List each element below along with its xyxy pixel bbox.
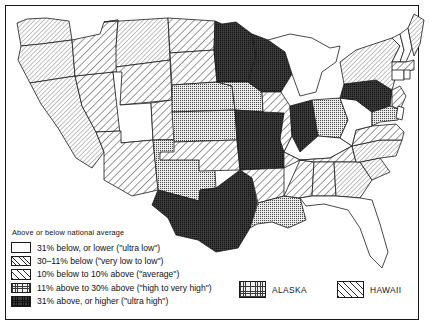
state-CT bbox=[392, 70, 404, 80]
state-NE bbox=[172, 82, 235, 112]
legend-swatch-ultrahigh bbox=[11, 296, 31, 307]
legend-label-high: 11% above to 30% above ("high to very hi… bbox=[37, 283, 212, 293]
legend-label-ultralow: 31% below, or lower ("ultra low") bbox=[37, 243, 160, 253]
state-MN bbox=[214, 21, 256, 82]
inset-label-alaska: ALASKA bbox=[272, 285, 307, 295]
inset-label-hawaii: HAWAII bbox=[370, 285, 402, 295]
legend-title: Above or below national average bbox=[12, 228, 261, 238]
legend-item-high: 11% above to 30% above ("high to very hi… bbox=[11, 281, 261, 294]
legend-item-verylow: 30–11% below ("very low to low") bbox=[11, 254, 261, 267]
state-ND bbox=[168, 18, 215, 53]
inset-swatch-hawaii bbox=[337, 281, 364, 298]
inset-legend: ALASKA HAWAII bbox=[239, 281, 414, 303]
state-KS bbox=[172, 110, 237, 142]
inset-swatch-alaska bbox=[239, 281, 266, 298]
legend-label-average: 10% below to 10% above ("average") bbox=[37, 269, 179, 279]
legend-swatch-high bbox=[11, 283, 31, 294]
legend-label-ultrahigh: 31% above, or higher ("ultra high") bbox=[37, 296, 168, 306]
legend-swatch-ultralow bbox=[11, 242, 31, 253]
state-WY bbox=[116, 60, 172, 105]
map-figure: Above or below national average 31% belo… bbox=[0, 0, 429, 326]
state-RI bbox=[404, 70, 410, 79]
legend-item-ultralow: 31% below, or lower ("ultra low") bbox=[11, 241, 261, 254]
legend: Above or below national average 31% belo… bbox=[11, 228, 261, 308]
inset-hawaii: HAWAII bbox=[337, 281, 402, 298]
legend-item-average: 10% below to 10% above ("average") bbox=[11, 268, 261, 281]
state-SD bbox=[170, 50, 217, 85]
state-AL bbox=[312, 162, 336, 196]
legend-swatch-average bbox=[11, 269, 31, 280]
legend-item-ultrahigh: 31% above, or higher ("ultra high") bbox=[11, 295, 261, 308]
state-MO bbox=[235, 110, 287, 170]
state-OR bbox=[18, 40, 75, 83]
legend-swatch-verylow bbox=[11, 256, 31, 267]
state-FL bbox=[300, 196, 388, 268]
legend-label-verylow: 30–11% below ("very low to low") bbox=[37, 256, 163, 266]
state-ID bbox=[72, 20, 122, 76]
inset-alaska: ALASKA bbox=[239, 281, 307, 298]
